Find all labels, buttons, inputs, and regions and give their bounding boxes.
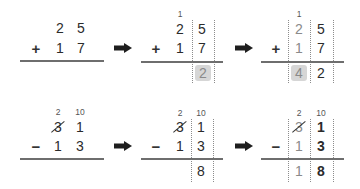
difference-line [20, 158, 104, 160]
addend-top-ones: 5 [198, 22, 206, 36]
plus-operator: + [32, 41, 41, 56]
sum-line [20, 60, 104, 62]
borrow-tens-digit: 2 [297, 109, 302, 118]
column-guide [191, 119, 192, 182]
minuend-ones: 1 [317, 120, 325, 134]
subtrahend-tens: 1 [176, 139, 184, 153]
right-arrow-icon [114, 43, 132, 53]
difference-line [261, 158, 344, 160]
addend-top-tens: 2 [56, 21, 64, 35]
addend-bottom-ones: 7 [77, 41, 85, 55]
plus-operator: + [272, 41, 281, 56]
minuend-ones: 1 [197, 120, 205, 134]
column-guide [213, 119, 214, 182]
column-guide [288, 20, 289, 83]
minus-operator: − [272, 139, 281, 154]
column-guide [214, 20, 215, 83]
column-guide [310, 20, 311, 83]
borrow-tens-digit: 2 [178, 109, 183, 118]
right-arrow-icon [235, 141, 253, 151]
subtrahend-tens: 1 [54, 139, 62, 153]
minuend-ones: 1 [76, 120, 84, 134]
result-tens: 1 [295, 164, 303, 178]
subtrahend-ones: 3 [197, 139, 205, 153]
arithmetic-diagram: 2 5 + 1 7 1 2 5 + 1 7 2 1 2 5 + 1 7 [0, 0, 360, 189]
column-guide [333, 20, 334, 83]
borrow-ones-digit: 10 [316, 109, 325, 118]
addend-bottom-ones: 7 [317, 41, 325, 55]
result-ones: 2 [317, 66, 325, 80]
minus-operator: − [32, 139, 41, 154]
sum-line [261, 61, 344, 63]
addend-bottom-ones: 7 [198, 41, 206, 55]
borrow-tens-digit: 2 [56, 108, 61, 117]
addend-top-tens: 2 [176, 22, 184, 36]
difference-line [141, 158, 223, 160]
column-guide [192, 20, 193, 83]
subtrahend-tens: 1 [295, 139, 303, 153]
right-arrow-icon [235, 43, 253, 53]
result-ones: 8 [317, 164, 325, 178]
addend-top-ones: 5 [77, 21, 85, 35]
borrow-ones-digit: 10 [196, 109, 205, 118]
carry-digit: 1 [297, 10, 302, 19]
subtrahend-ones: 3 [317, 139, 325, 153]
result-ones: 8 [197, 164, 205, 178]
addend-bottom-tens: 1 [176, 41, 184, 55]
addend-top-tens: 2 [295, 22, 303, 36]
addend-bottom-tens: 1 [295, 41, 303, 55]
borrow-ones-digit: 10 [75, 108, 84, 117]
subtrahend-ones: 3 [76, 139, 84, 153]
carry-digit: 1 [178, 10, 183, 19]
column-guide [288, 119, 289, 182]
column-guide [310, 119, 311, 182]
sum-line [141, 61, 223, 63]
result-ones: 2 [199, 66, 207, 80]
plus-operator: + [152, 41, 161, 56]
column-guide [333, 119, 334, 182]
addend-top-ones: 5 [317, 22, 325, 36]
addend-bottom-tens: 1 [56, 41, 64, 55]
result-tens: 4 [295, 66, 303, 80]
minus-operator: − [152, 139, 161, 154]
right-arrow-icon [114, 141, 132, 151]
